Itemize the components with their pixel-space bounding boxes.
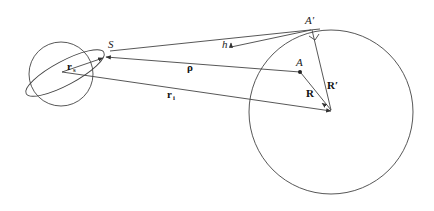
vector-r-i xyxy=(62,72,331,111)
label-R: R xyxy=(306,87,315,99)
orbit-ring xyxy=(21,42,110,105)
geometry-diagram: S A′ A h ρ rs ri R′ R xyxy=(0,0,434,211)
small-sphere xyxy=(29,42,93,106)
satellite-body xyxy=(21,42,110,106)
large-sphere xyxy=(249,30,413,194)
label-r-s: rs xyxy=(67,60,76,74)
vector-rho xyxy=(106,57,300,72)
label-rho: ρ xyxy=(187,61,193,73)
line-h-angle xyxy=(231,30,311,47)
tangent-line xyxy=(310,29,320,30)
label-S: S xyxy=(108,38,114,50)
label-R-prime: R′ xyxy=(327,79,338,91)
label-A: A xyxy=(295,56,303,68)
label-h: h xyxy=(222,38,228,50)
point-A xyxy=(298,70,302,74)
label-r-i: ri xyxy=(167,88,175,102)
label-A-prime: A′ xyxy=(304,14,315,26)
diagram-canvas: S A′ A h ρ rs ri R′ R xyxy=(0,0,434,211)
